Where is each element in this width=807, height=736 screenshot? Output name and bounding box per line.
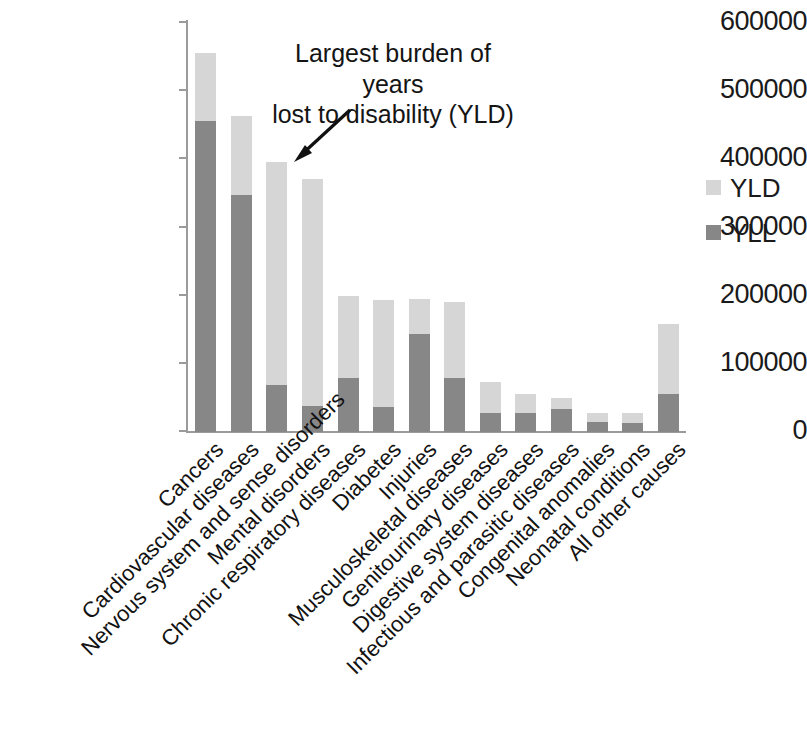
bar-segment-yll [409,334,430,432]
bar-all-other-causes[interactable] [658,324,679,432]
bar-segment-yll [231,195,252,432]
bar-chronic-respiratory-diseases[interactable] [338,296,359,432]
bar-segment-yll [480,413,501,432]
x-axis-label-cardiovascular-diseases: Cardiovascular diseases [67,438,263,634]
bar-segment-yll [302,406,323,432]
bar-segment-yll [373,407,394,432]
x-axis-label-musculoskeletal-diseases: Musculoskeletal diseases [130,438,477,736]
bar-cancers[interactable] [195,53,216,432]
y-tick-200000 [179,294,187,296]
legend-item-yll[interactable]: YLL [706,210,806,255]
y-tick-400000 [179,157,187,159]
bar-cardiovascular-diseases[interactable] [231,116,252,432]
y-tick-600000 [179,21,187,23]
bar-segment-yld [231,116,252,195]
bar-digestive-system-diseases[interactable] [515,394,536,432]
bar-congenital-anomalies[interactable] [587,413,608,432]
bar-infectious-and-parasitic-diseases[interactable] [551,398,572,432]
bar-segment-yld [480,382,501,413]
chart-legend: YLDYLL [706,165,806,255]
bar-segment-yld [622,413,643,423]
bar-segment-yll [266,385,287,432]
x-axis-label-injuries: Injuries [119,438,441,736]
y-tick-0 [179,430,187,432]
bar-segment-yll [551,409,572,432]
x-axis-label-chronic-respiratory-diseases: Chronic respiratory diseases [98,438,370,710]
y-tick-300000 [179,226,187,228]
x-axis-label-mental-disorders: Mental disorders [88,438,334,684]
bar-segment-yll [444,378,465,432]
bar-segment-yld [409,299,430,333]
bar-segment-yld [373,300,394,406]
legend-label-yld: YLD [730,175,781,201]
bar-segment-yll [515,413,536,432]
x-axis-label-infectious-and-parasitic-diseases: Infectious and parasitic diseases [161,438,583,736]
bar-musculoskeletal-diseases[interactable] [444,302,465,432]
annotation-arrow-icon [286,106,356,166]
y-tick-500000 [179,89,187,91]
bar-segment-yld [515,394,536,413]
x-axis-label-nervous-system-and-sense-disorders: Nervous system and sense disorders [77,438,298,659]
bar-segment-yld [302,179,323,406]
y-tick-100000 [179,362,187,364]
bar-nervous-system-and-sense-disorders[interactable] [266,162,287,432]
bar-segment-yll [622,423,643,432]
bar-segment-yld [551,398,572,410]
bar-mental-disorders[interactable] [302,179,323,432]
bar-neonatal-conditions[interactable] [622,413,643,432]
x-axis-label-cancers: Cancers [57,438,228,609]
legend-item-yld[interactable]: YLD [706,165,806,210]
x-axis-label-diabetes: Diabetes [109,438,406,735]
bar-segment-yll [587,422,608,432]
legend-swatch-yll [706,225,721,240]
legend-label-yll: YLL [730,220,776,246]
bar-genitourinary-diseases[interactable] [480,382,501,432]
annotation-line-1: Largest burden of years [263,38,523,99]
x-axis-label-all-other-causes: All other causes [192,438,690,736]
bar-diabetes[interactable] [373,300,394,432]
bar-segment-yld [195,53,216,121]
x-axis-label-digestive-system-diseases: Digestive system diseases [150,438,547,736]
bar-segment-yll [338,378,359,432]
bar-injuries[interactable] [409,299,430,432]
bar-segment-yld [658,324,679,394]
bar-segment-yll [195,121,216,432]
legend-swatch-yld [706,180,721,195]
bar-segment-yld [587,413,608,421]
bar-segment-yld [444,302,465,379]
bar-segment-yll [658,394,679,432]
x-axis-label-neonatal-conditions: Neonatal conditions [182,438,655,736]
chart-figure: 600000 500000 400000 300000 200000 10000… [0,0,807,736]
x-axis-label-congenital-anomalies: Congenital anomalies [171,438,619,736]
bar-segment-yld [338,296,359,378]
bar-segment-yld [266,162,287,385]
x-axis-label-genitourinary-diseases: Genitourinary diseases [140,438,512,736]
